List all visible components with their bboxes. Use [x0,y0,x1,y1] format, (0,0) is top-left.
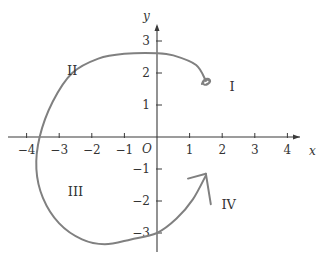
quadrant-label-ii: II [67,63,77,78]
origin-label: O [142,142,152,156]
arrow-barb [188,174,206,179]
quadrant-label-i: I [229,79,234,94]
y-axis-label: y [142,9,150,23]
x-tick-label: −2 [83,143,101,157]
x-tick-label: 1 [186,143,194,157]
coordinate-plane: −4−3−2−11234321−1−2−3xyO IIIIIIIV [0,0,329,259]
x-axis-arrow-icon [293,135,300,140]
y-tick-label: 1 [142,98,150,112]
x-tick-label: 3 [251,143,259,157]
x-axis-label: x [309,144,316,158]
y-tick-label: 3 [142,34,150,48]
x-tick-label: 2 [218,143,226,157]
y-tick-label: −1 [132,162,150,176]
quadrant-label-iv: IV [221,197,236,212]
y-tick-label: −2 [132,194,150,208]
arrow-barb [206,174,211,204]
x-tick-label: −4 [18,143,36,157]
y-tick-label: 2 [142,66,150,80]
x-tick-label: 4 [284,143,292,157]
x-tick-label: −3 [50,143,68,157]
x-tick-label: −1 [116,143,134,157]
y-axis-arrow-icon [155,24,160,31]
quadrant-label-iii: III [68,184,83,199]
